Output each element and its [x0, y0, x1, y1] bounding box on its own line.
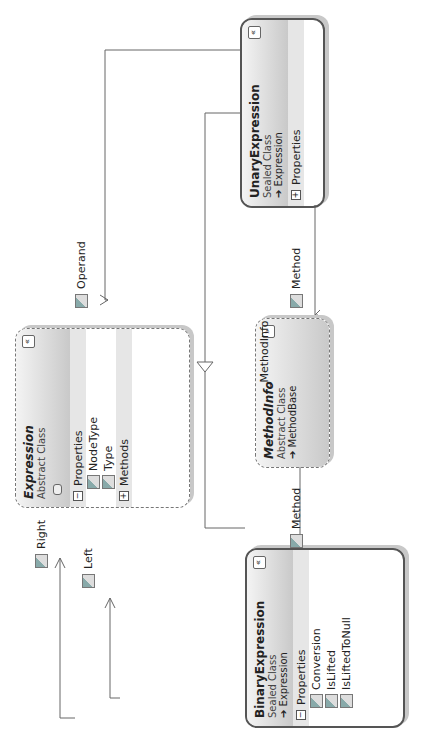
minus-icon[interactable]: − [296, 710, 306, 720]
class-diagram: Expression Abstract Class « −Properties … [0, 0, 433, 738]
class-header: UnaryExpression Sealed Class ➔ Expressio… [242, 20, 288, 206]
property-item[interactable]: Conversion [309, 550, 324, 726]
property-icon [102, 475, 115, 489]
association-label-operand[interactable]: Operand [75, 241, 88, 308]
class-kind: Sealed Class [267, 558, 278, 718]
base-class: ➔ Expression [273, 28, 284, 198]
section-properties[interactable]: +Properties [288, 20, 304, 206]
class-binary-expression[interactable]: BinaryExpression Sealed Class ➔ Expressi… [245, 548, 405, 728]
class-header: BinaryExpression Sealed Class ➔ Expressi… [247, 550, 293, 726]
property-item[interactable]: NodeType [86, 329, 101, 507]
property-icon [310, 694, 323, 708]
property-icon [82, 574, 95, 588]
class-kind: Abstract Class [36, 337, 47, 499]
inherit-arrow-icon: ➔ [278, 710, 289, 718]
plus-icon[interactable]: + [119, 491, 129, 501]
association-label-method-unary[interactable]: Method [290, 248, 303, 308]
minus-icon[interactable]: − [73, 491, 83, 501]
property-icon [340, 694, 353, 708]
collapse-icon[interactable]: « [248, 26, 261, 39]
property-icon [87, 475, 100, 489]
collapse-icon[interactable]: « [253, 556, 266, 569]
section-properties[interactable]: −Properties [70, 329, 86, 507]
section-methods[interactable]: +Methods [116, 329, 132, 507]
class-name: UnaryExpression [248, 28, 262, 198]
interface-label-methodinfo[interactable]: _MethodInfo [258, 320, 271, 388]
class-unary-expression[interactable]: UnaryExpression Sealed Class ➔ Expressio… [240, 18, 325, 208]
inherit-arrow-icon: ➔ [273, 190, 284, 198]
association-label-right[interactable]: Right [35, 520, 48, 568]
database-icon [53, 484, 62, 495]
section-properties[interactable]: −Properties [293, 550, 309, 726]
property-item[interactable]: Type [101, 329, 116, 507]
association-label-method-binary[interactable]: Method [290, 488, 303, 548]
class-header: Expression Abstract Class « [16, 329, 70, 507]
association-label-left[interactable]: Left [82, 548, 95, 588]
inherit-arrow-icon: ➔ [287, 451, 298, 459]
property-item[interactable]: IsLiftedToNull [339, 550, 354, 726]
base-class: ➔ MethodBase [287, 327, 298, 459]
base-class: ➔ Expression [278, 558, 289, 718]
class-name: Expression [22, 337, 36, 499]
property-icon [290, 534, 303, 548]
property-icon [35, 554, 48, 568]
plus-icon[interactable]: + [291, 190, 301, 200]
property-icon [290, 294, 303, 308]
class-name: BinaryExpression [253, 558, 267, 718]
property-icon [75, 294, 88, 308]
collapse-icon[interactable]: « [22, 335, 35, 348]
property-item[interactable]: IsLifted [324, 550, 339, 726]
class-kind: Sealed Class [262, 28, 273, 198]
property-icon [325, 694, 338, 708]
class-expression[interactable]: Expression Abstract Class « −Properties … [15, 328, 190, 508]
class-kind: Abstract Class [276, 327, 287, 459]
